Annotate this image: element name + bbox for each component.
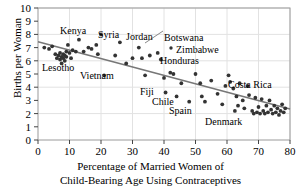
data-point — [272, 104, 276, 108]
data-point — [68, 51, 72, 55]
x-tick-label: 10 — [58, 146, 82, 157]
scatter-plot-figure: Births per Woman Percentage of Married W… — [0, 0, 301, 186]
annotation-label-lesotho: Lesotho — [42, 63, 74, 73]
data-point — [77, 38, 81, 42]
data-point — [264, 104, 268, 108]
x-tick-label: 70 — [247, 146, 271, 157]
data-point — [194, 72, 198, 76]
data-point — [94, 43, 98, 47]
data-point — [118, 40, 122, 44]
data-point — [66, 43, 70, 47]
data-point — [280, 102, 284, 106]
data-point — [47, 47, 51, 51]
annotation-label-costa-rica: Costa Rica — [228, 80, 272, 90]
data-point — [148, 54, 152, 58]
data-point — [64, 55, 68, 59]
annotation-label-syria: Syria — [98, 30, 119, 40]
y-tick-label: 5 — [17, 69, 31, 80]
data-point — [209, 79, 213, 83]
data-point — [258, 112, 262, 116]
x-tick-label: 60 — [215, 146, 239, 157]
annotation-label-kenya: Kenya — [60, 26, 86, 36]
data-point — [172, 72, 176, 76]
data-point — [283, 106, 287, 110]
data-point — [175, 95, 179, 99]
data-point — [220, 102, 224, 106]
data-point — [82, 50, 86, 54]
data-point — [253, 96, 257, 100]
x-tick-label: 20 — [89, 146, 113, 157]
y-tick-label: 0 — [17, 135, 31, 146]
data-point — [266, 110, 270, 114]
data-point — [247, 93, 251, 97]
data-point — [179, 81, 183, 85]
data-point — [268, 99, 272, 103]
y-tick-label: 3 — [17, 95, 31, 106]
annotation-marker-zimbabwe — [169, 46, 172, 49]
data-point — [143, 73, 147, 77]
data-point — [50, 44, 54, 48]
data-point — [198, 81, 202, 85]
data-point — [96, 52, 100, 56]
annotation-label-spain: Spain — [169, 106, 192, 116]
data-point — [236, 104, 240, 108]
data-point — [124, 62, 128, 66]
x-tick-label: 80 — [278, 146, 301, 157]
y-tick-label: 9 — [17, 16, 31, 27]
annotation-label-botswana: Botswana — [164, 33, 203, 43]
data-point — [242, 106, 246, 110]
data-point — [276, 106, 280, 110]
data-point — [274, 110, 278, 114]
x-axis-label-line1: Percentage of Married Women of — [0, 160, 301, 174]
y-tick-label: 10 — [17, 3, 31, 14]
data-point — [257, 105, 261, 109]
annotation-label-honduras: Honduras — [160, 56, 199, 66]
data-point — [269, 108, 273, 112]
annotation-label-zimbabwe: Zimbabwe — [176, 45, 219, 55]
data-point — [200, 95, 204, 99]
data-point — [241, 99, 245, 103]
data-point — [164, 91, 168, 95]
data-point — [216, 92, 220, 96]
data-point — [187, 100, 191, 104]
data-point — [260, 97, 264, 101]
data-point — [137, 46, 141, 50]
data-point — [90, 47, 94, 51]
x-tick-label: 50 — [184, 146, 208, 157]
x-tick-label: 0 — [26, 146, 50, 157]
y-tick-label: 4 — [17, 82, 31, 93]
data-point — [74, 50, 78, 54]
y-tick-label: 2 — [17, 109, 31, 120]
data-point — [113, 54, 117, 58]
x-tick-label: 30 — [121, 146, 145, 157]
data-point — [224, 84, 228, 88]
x-axis-label-line2: Child-Bearing Age Using Contraceptives — [0, 174, 301, 186]
x-axis-label: Percentage of Married Women of Child-Bea… — [0, 160, 301, 186]
annotation-label-denmark: Denmark — [205, 117, 242, 127]
data-point — [282, 110, 286, 114]
data-point — [69, 56, 73, 60]
data-point — [162, 76, 166, 80]
x-tick-label: 40 — [152, 146, 176, 157]
y-tick-label: 1 — [17, 122, 31, 133]
data-point — [131, 56, 135, 60]
annotation-label-vietnam: Vietnam — [80, 71, 114, 81]
y-tick-label: 8 — [17, 29, 31, 40]
data-point — [140, 56, 144, 60]
y-tick-label: 6 — [17, 56, 31, 67]
y-tick-label: 7 — [17, 43, 31, 54]
data-point — [277, 113, 281, 117]
data-point — [42, 46, 46, 50]
annotation-label-jordan: Jordan — [126, 32, 153, 42]
data-point — [233, 109, 237, 113]
data-point — [203, 100, 207, 104]
data-point — [227, 73, 231, 77]
data-point — [235, 95, 239, 99]
